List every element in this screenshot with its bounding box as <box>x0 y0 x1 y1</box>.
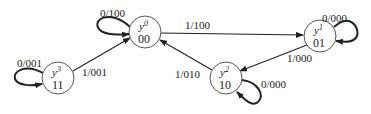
label-y2-y0: 1/010 <box>175 68 201 80</box>
svg-text:01: 01 <box>313 36 325 50</box>
svg-text:10: 10 <box>219 78 231 92</box>
label-y3-y0: 1/001 <box>82 66 107 78</box>
diagram-svg: y0 00 y1 01 y2 10 y3 11 0/100 1/100 0/00… <box>0 0 371 114</box>
state-y2: y2 10 <box>210 62 242 94</box>
label-y1-self: 0/000 <box>322 12 348 24</box>
label-y0-self: 0/100 <box>100 7 126 19</box>
state-diagram: y0 00 y1 01 y2 10 y3 11 0/100 1/100 0/00… <box>0 0 371 114</box>
label-y0-y1: 1/100 <box>185 19 211 31</box>
state-y1: y1 01 <box>304 20 336 52</box>
state-y0: y0 00 <box>129 16 161 48</box>
self-loop-y0 <box>97 17 130 35</box>
svg-text:11: 11 <box>52 78 64 92</box>
edge-y0-to-y1 <box>161 33 303 35</box>
state-y3: y3 11 <box>42 62 74 94</box>
label-y1-y2: 1/000 <box>287 52 313 64</box>
label-y2-self: 0/000 <box>261 78 287 90</box>
self-loop-y3 <box>15 69 43 86</box>
edge-y2-to-y0 <box>160 40 212 70</box>
label-y3-self: 0/001 <box>17 57 42 69</box>
svg-text:00: 00 <box>138 32 150 46</box>
